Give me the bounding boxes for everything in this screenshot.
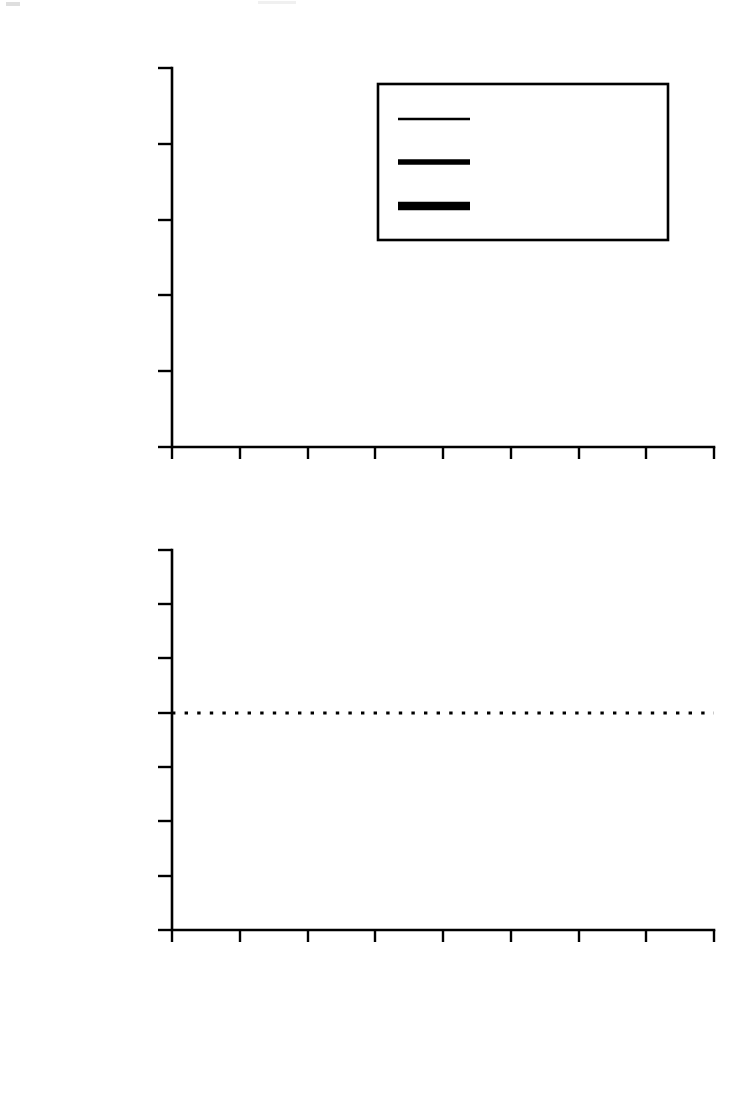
figure-root: [0, 0, 749, 1101]
bottom-panel-x-ticks: [172, 930, 714, 942]
bottom-panel-response-strength: [0, 500, 749, 1101]
top-panel-x-ticks: [172, 447, 714, 459]
top-panel-y-ticks: [158, 68, 172, 447]
bottom-panel-axes: [172, 550, 714, 930]
bottom-panel-y-ticks: [158, 550, 172, 930]
top-panel-integrator-activation: [0, 0, 749, 500]
integrator-legend: [378, 84, 668, 240]
